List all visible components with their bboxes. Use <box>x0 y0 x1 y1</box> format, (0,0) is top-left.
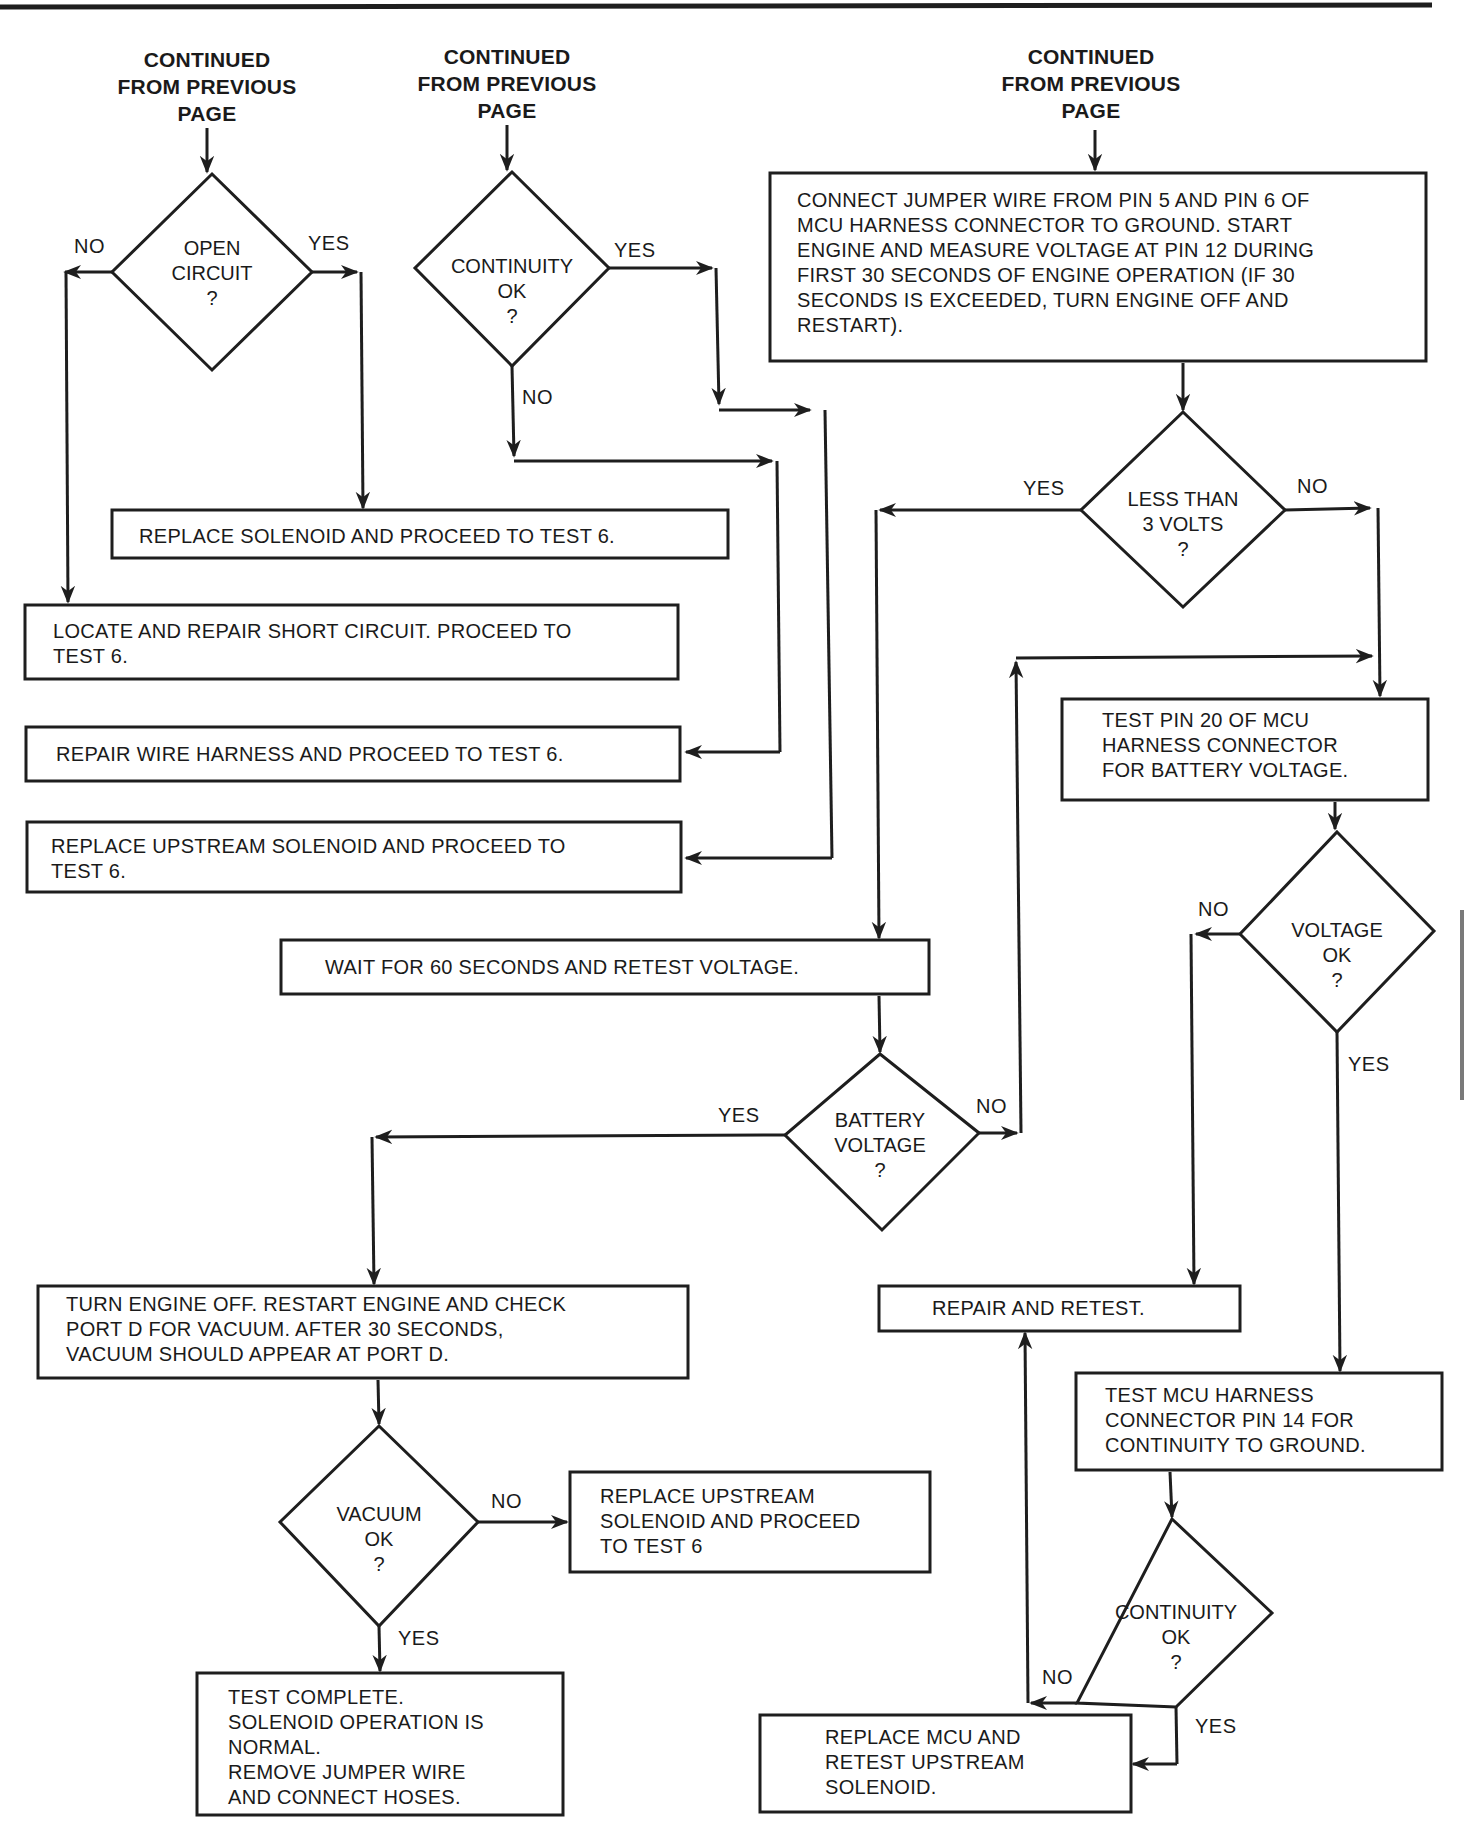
step-test-complete: TEST COMPLETE. SOLENOID OPERATION IS NOR… <box>228 1685 484 1810</box>
label-continuity-bottom-yes: YES <box>1195 1715 1237 1738</box>
decision-voltage-ok-text: VOLTAGE OK ? <box>1257 918 1417 993</box>
label-battery-yes: YES <box>718 1104 760 1127</box>
decision-battery-voltage-text: BATTERY VOLTAGE ? <box>800 1108 960 1183</box>
label-continuity-bottom-no: NO <box>1042 1666 1073 1689</box>
step-repair-harness: REPAIR WIRE HARNESS AND PROCEED TO TEST … <box>56 742 564 767</box>
step-replace-solenoid: REPLACE SOLENOID AND PROCEED TO TEST 6. <box>139 524 615 549</box>
decision-less-than-3-volts-text: LESS THAN 3 VOLTS ? <box>1103 487 1263 562</box>
label-vacuum-no: NO <box>491 1490 522 1513</box>
decision-continuity-bottom-text: CONTINUITY OK ? <box>1096 1600 1256 1675</box>
decision-continuity-top-text: CONTINUITY OK ? <box>432 254 592 329</box>
step-test-pin14: TEST MCU HARNESS CONNECTOR PIN 14 FOR CO… <box>1105 1383 1366 1458</box>
label-less3-yes: YES <box>1023 477 1065 500</box>
decision-open-circuit-text: OPEN CIRCUIT ? <box>142 236 282 311</box>
label-continuity-top-yes: YES <box>614 239 656 262</box>
step-replace-mcu: REPLACE MCU AND RETEST UPSTREAM SOLENOID… <box>825 1725 1025 1800</box>
label-battery-no: NO <box>976 1095 1007 1118</box>
step-replace-upstream-1: REPLACE UPSTREAM SOLENOID AND PROCEED TO… <box>51 834 566 884</box>
page-edge-tab <box>1460 910 1464 1100</box>
header-continued-col3: CONTINUED FROM PREVIOUS PAGE <box>971 43 1211 124</box>
label-vacuum-yes: YES <box>398 1627 440 1650</box>
step-wait-60: WAIT FOR 60 SECONDS AND RETEST VOLTAGE. <box>325 955 799 980</box>
step-turn-engine-off: TURN ENGINE OFF. RESTART ENGINE AND CHEC… <box>66 1292 566 1367</box>
step-connect-jumper: CONNECT JUMPER WIRE FROM PIN 5 AND PIN 6… <box>797 188 1417 338</box>
label-less3-no: NO <box>1297 475 1328 498</box>
label-voltage-no: NO <box>1198 898 1229 921</box>
label-continuity-top-no: NO <box>522 386 553 409</box>
header-continued-col2: CONTINUED FROM PREVIOUS PAGE <box>387 43 627 124</box>
page-top-rule <box>0 5 1432 7</box>
shapes <box>25 172 1442 1815</box>
label-open-yes: YES <box>308 232 350 255</box>
label-voltage-yes: YES <box>1348 1053 1390 1076</box>
decision-vacuum-ok-text: VACUUM OK ? <box>299 1502 459 1577</box>
step-repair-retest: REPAIR AND RETEST. <box>932 1296 1145 1321</box>
step-replace-upstream-2: REPLACE UPSTREAM SOLENOID AND PROCEED TO… <box>600 1484 861 1559</box>
flowchart-canvas: CONTINUED FROM PREVIOUS PAGE CONTINUED F… <box>0 0 1464 1840</box>
step-locate-short: LOCATE AND REPAIR SHORT CIRCUIT. PROCEED… <box>53 619 572 669</box>
header-continued-col1: CONTINUED FROM PREVIOUS PAGE <box>87 46 327 127</box>
step-test-pin20: TEST PIN 20 OF MCU HARNESS CONNECTOR FOR… <box>1102 708 1348 783</box>
label-open-no: NO <box>74 235 105 258</box>
